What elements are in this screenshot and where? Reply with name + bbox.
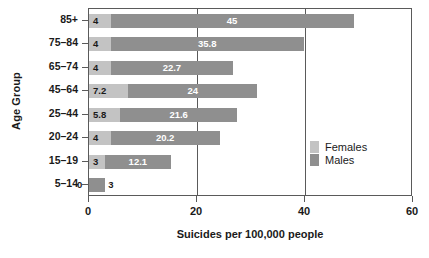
value-label-females: 4 [93, 14, 98, 28]
chart-legend: Females Males [310, 140, 367, 166]
bar-segment-males [89, 178, 105, 192]
y-axis-label-1519: 15–19 [0, 154, 78, 166]
x-axis-tick [196, 196, 197, 202]
x-axis-label-0: 0 [68, 205, 108, 217]
y-axis-tick [82, 67, 88, 68]
bar-row: 5.821.6 [89, 108, 411, 122]
y-axis-label-2544: 25–44 [0, 107, 78, 119]
value-label-females: 4 [93, 61, 98, 75]
x-axis-label-40: 40 [284, 205, 324, 217]
x-axis-tick [304, 196, 305, 202]
legend-label-males: Males [325, 154, 354, 166]
legend-item-males: Males [310, 153, 367, 166]
value-label-females: 4 [93, 37, 98, 51]
y-axis-label-7584: 75–84 [0, 36, 78, 48]
value-label-females: 7.2 [93, 84, 106, 98]
y-axis-tick [82, 90, 88, 91]
bar-row: 7.224 [89, 84, 411, 98]
legend-swatch-females [310, 141, 319, 153]
legend-item-females: Females [310, 140, 367, 153]
value-label-females: 5.8 [93, 108, 106, 122]
value-label-females: 4 [93, 131, 98, 145]
x-axis-label-20: 20 [176, 205, 216, 217]
value-label-males: 24 [128, 84, 258, 98]
x-axis-tick [412, 196, 413, 202]
y-axis-tick [82, 184, 88, 185]
y-axis-label-514: 5–14 [0, 177, 78, 189]
y-axis-tick [82, 161, 88, 162]
y-axis-tick [82, 137, 88, 138]
bar-row: 03 [89, 178, 411, 192]
y-axis-tick [82, 114, 88, 115]
value-label-males: 21.6 [120, 108, 237, 122]
value-label-females: 3 [93, 155, 98, 169]
value-label-males: 22.7 [111, 61, 234, 75]
x-axis-title: Suicides per 100,000 people [88, 228, 412, 240]
value-label-males: 12.1 [105, 155, 170, 169]
value-label-females: 0 [77, 178, 82, 192]
y-axis-tick [82, 20, 88, 21]
y-axis-label-85: 85+ [0, 13, 78, 25]
bar-row: 435.8 [89, 37, 411, 51]
value-label-males: 20.2 [111, 131, 220, 145]
bar-row: 422.7 [89, 61, 411, 75]
suicide-rate-bar-chart: Age Group 85+75–8465–7445–6425–4420–2415… [0, 0, 429, 258]
y-axis-label-2024: 20–24 [0, 130, 78, 142]
y-axis-labels: 85+75–8465–7445–6425–4420–2415–195–14 [0, 0, 78, 258]
x-axis-tick [88, 196, 89, 202]
legend-swatch-males [310, 154, 319, 166]
value-label-males: 45 [111, 14, 354, 28]
y-axis-label-4564: 45–64 [0, 83, 78, 95]
value-label-males: 3 [108, 178, 113, 192]
bar-row: 445 [89, 14, 411, 28]
x-axis-label-60: 60 [392, 205, 429, 217]
plot-area: 445435.8422.77.2245.821.6420.2312.103 [88, 8, 412, 196]
legend-label-females: Females [325, 141, 367, 153]
y-axis-tick [82, 43, 88, 44]
y-axis-label-6574: 65–74 [0, 60, 78, 72]
value-label-males: 35.8 [111, 37, 304, 51]
